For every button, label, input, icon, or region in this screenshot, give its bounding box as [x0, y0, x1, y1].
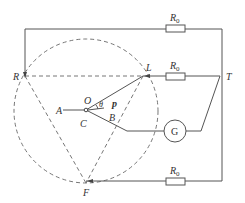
galvanometer-wire — [186, 76, 220, 131]
label-a: A — [55, 105, 63, 116]
center-o — [84, 108, 88, 112]
label-theta: θ — [99, 100, 103, 109]
label-r: R — [12, 71, 19, 82]
resistor-middle — [166, 73, 185, 80]
probe-wire — [86, 110, 164, 131]
label-t: T — [226, 71, 233, 82]
arrow-r — [23, 72, 27, 78]
label-p: p — [111, 98, 117, 109]
resistor-top — [166, 25, 185, 32]
label-c: C — [80, 118, 87, 129]
resistor-middle-label: R0 — [169, 60, 180, 73]
label-o: O — [84, 95, 91, 106]
label-f: F — [82, 187, 90, 198]
top-wire-right — [185, 29, 222, 181]
arrow-l — [144, 74, 150, 78]
arrow-f — [87, 179, 93, 183]
galvanometer-label: G — [171, 126, 178, 137]
dashed-line-rf — [25, 76, 86, 183]
resistor-bottom-label: R0 — [169, 165, 180, 178]
resistor-top-label: R0 — [169, 12, 180, 25]
circuit-diagram: R0 R0 R0 G R L T F A O C B p θ — [0, 0, 245, 203]
resistor-bottom — [166, 178, 185, 185]
label-l: L — [145, 62, 152, 73]
label-b: B — [109, 112, 115, 123]
dashed-line-lf — [86, 76, 143, 183]
